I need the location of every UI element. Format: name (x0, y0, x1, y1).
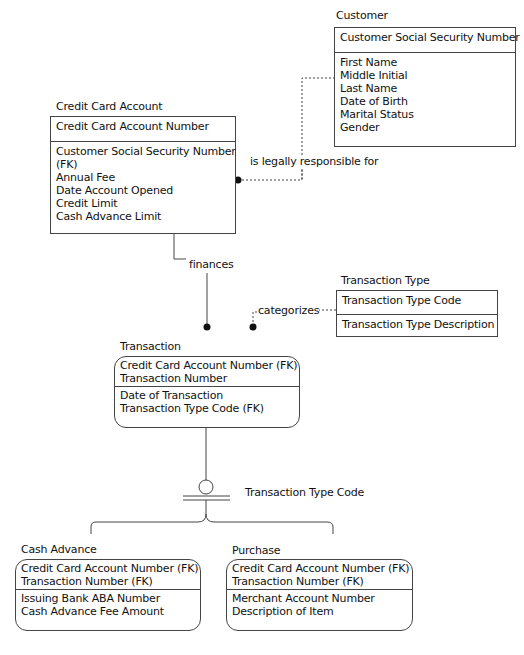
entity-title-cash-advance: Cash Advance (21, 543, 97, 556)
attribute: Marital Status (340, 108, 510, 121)
attribute: (FK) (56, 158, 230, 171)
entity-title-customer: Customer (336, 9, 388, 22)
attribute: Customer Social Security Number (56, 145, 230, 158)
relationship-label-finances: finances (189, 258, 234, 271)
relationship-label-categorizes: categorizes (258, 304, 319, 317)
attribute: Transaction Type Description (342, 318, 492, 331)
relationship-finances (174, 233, 207, 326)
attribute: Credit Limit (56, 197, 230, 210)
attribute: Issuing Bank ABA Number (21, 592, 195, 605)
attribute: Date of Transaction (120, 389, 294, 402)
customer-attribute-section: First Name Middle Initial Last Name Date… (335, 53, 515, 137)
entity-cash-advance: Credit Card Account Number (FK) Transact… (15, 559, 201, 631)
many-dot-icon (204, 324, 211, 331)
purchase-key-section: Credit Card Account Number (FK) Transact… (227, 560, 412, 590)
attribute: Cash Advance Fee Amount (21, 605, 195, 618)
transaction-key-section: Credit Card Account Number (FK) Transact… (115, 357, 299, 387)
entity-title-purchase: Purchase (232, 544, 280, 557)
attribute: Date of Birth (340, 95, 510, 108)
key-attribute: Customer Social Security Number (340, 31, 510, 44)
relationship-label-responsible: is legally responsible for (250, 155, 378, 168)
transaction-attribute-section: Date of Transaction Transaction Type Cod… (115, 387, 299, 418)
attribute: Last Name (340, 82, 510, 95)
attribute: Date Account Opened (56, 184, 230, 197)
cash-advance-key-section: Credit Card Account Number (FK) Transact… (16, 560, 200, 590)
transaction-type-key-section: Transaction Type Code (337, 291, 497, 315)
entity-purchase: Credit Card Account Number (FK) Transact… (226, 559, 413, 631)
entity-customer: Customer Social Security Number First Na… (334, 27, 516, 147)
attribute: Gender (340, 121, 510, 134)
entity-title-transaction-type: Transaction Type (341, 274, 430, 287)
subtype-connector (91, 428, 333, 534)
key-attribute: Transaction Number (FK) (21, 575, 195, 588)
entity-transaction-type: Transaction Type Code Transaction Type D… (336, 290, 498, 337)
entity-credit-card-account: Credit Card Account Number Customer Soci… (50, 116, 236, 234)
attribute: Middle Initial (340, 69, 510, 82)
entity-title-credit-card-account: Credit Card Account (56, 100, 162, 113)
attribute: Description of Item (232, 605, 407, 618)
key-attribute: Transaction Number (120, 372, 294, 385)
attribute: First Name (340, 56, 510, 69)
key-attribute: Credit Card Account Number (FK) (232, 562, 407, 575)
er-diagram: Customer Customer Social Security Number… (0, 0, 524, 655)
transaction-type-attribute-section: Transaction Type Description (337, 315, 497, 334)
subtype-discriminator-label: Transaction Type Code (245, 486, 364, 499)
purchase-attribute-section: Merchant Account Number Description of I… (227, 590, 412, 621)
key-attribute: Transaction Type Code (342, 294, 492, 307)
key-attribute: Transaction Number (FK) (232, 575, 407, 588)
credit-card-account-attribute-section: Customer Social Security Number (FK) Ann… (51, 142, 235, 226)
key-attribute: Credit Card Account Number (FK) (21, 562, 195, 575)
key-attribute: Credit Card Account Number (56, 120, 230, 133)
customer-key-section: Customer Social Security Number (335, 28, 515, 53)
key-attribute: Credit Card Account Number (FK) (120, 359, 294, 372)
entity-title-transaction: Transaction (120, 340, 181, 353)
attribute: Cash Advance Limit (56, 210, 230, 223)
many-dot-icon (250, 324, 257, 331)
attribute: Transaction Type Code (FK) (120, 402, 294, 415)
attribute: Merchant Account Number (232, 592, 407, 605)
credit-card-account-key-section: Credit Card Account Number (51, 117, 235, 142)
cash-advance-attribute-section: Issuing Bank ABA Number Cash Advance Fee… (16, 590, 200, 621)
attribute: Annual Fee (56, 171, 230, 184)
entity-transaction: Credit Card Account Number (FK) Transact… (114, 356, 300, 428)
